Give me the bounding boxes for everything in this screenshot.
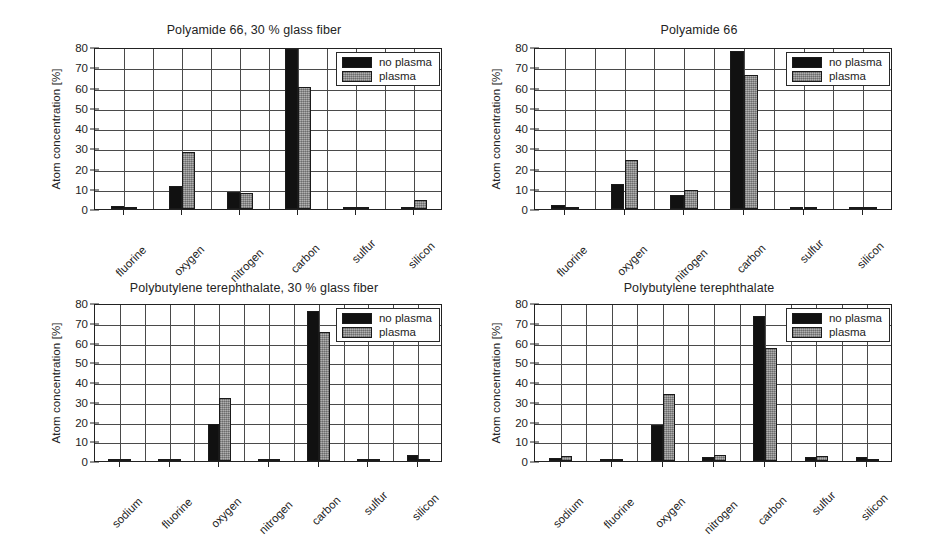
y-axis-tick bbox=[90, 442, 99, 443]
y-axis-tick-label: 0 bbox=[522, 204, 528, 216]
bar-silicon-plasma bbox=[863, 207, 877, 209]
bar-oxygen-no-plasma bbox=[208, 424, 219, 461]
x-axis-tick-label: carbon bbox=[288, 242, 321, 275]
y-axis-tick-label: 80 bbox=[75, 42, 88, 54]
y-axis-tick-label: 20 bbox=[75, 164, 88, 176]
bar-oxygen-no-plasma bbox=[169, 186, 182, 209]
bar-nitrogen-no-plasma bbox=[670, 195, 684, 209]
y-axis-tick-label: 50 bbox=[515, 103, 528, 115]
bar-carbon-no-plasma bbox=[730, 51, 744, 209]
legend-label-plasma: plasma bbox=[379, 326, 416, 338]
y-axis-tick bbox=[530, 343, 539, 344]
y-axis-tick-label: 60 bbox=[515, 338, 528, 350]
y-axis-label: Atom concentration [%] bbox=[490, 304, 502, 462]
y-axis-tick bbox=[90, 149, 99, 150]
x-axis-tick bbox=[355, 210, 356, 215]
bar-nitrogen-plasma bbox=[684, 190, 698, 209]
x-axis-tick bbox=[743, 210, 744, 215]
chart-title: Polyamide 66 bbox=[476, 23, 922, 37]
y-axis-tick-label: 10 bbox=[515, 184, 528, 196]
bar-nitrogen-plasma bbox=[269, 459, 280, 461]
legend-item-no-plasma: no plasma bbox=[342, 312, 432, 324]
gridline-vertical bbox=[740, 305, 741, 461]
y-axis-tick-label: 40 bbox=[515, 377, 528, 389]
y-axis-tick bbox=[90, 402, 99, 403]
y-axis-tick bbox=[90, 169, 99, 170]
legend-label-no-plasma: no plasma bbox=[379, 56, 432, 68]
bar-nitrogen-no-plasma bbox=[258, 459, 269, 461]
legend-label-no-plasma: no plasma bbox=[829, 56, 882, 68]
y-axis-tick bbox=[90, 129, 99, 130]
plot-wrapper: no plasma plasma 01020304050607080fluori… bbox=[94, 48, 442, 210]
y-axis-tick bbox=[90, 210, 99, 211]
legend-swatch-no-plasma bbox=[342, 57, 372, 68]
bar-sodium-plasma bbox=[120, 459, 131, 461]
y-axis-tick-label: 50 bbox=[75, 103, 88, 115]
x-axis-tick bbox=[181, 210, 182, 215]
y-axis-tick bbox=[530, 169, 539, 170]
legend-swatch-plasma bbox=[792, 71, 822, 82]
gridline-horizontal bbox=[95, 384, 441, 385]
legend-item-plasma: plasma bbox=[342, 326, 432, 338]
gridline-horizontal bbox=[95, 404, 441, 405]
bar-sulfur-no-plasma bbox=[343, 207, 356, 209]
y-axis-tick bbox=[530, 129, 539, 130]
bar-fluorine-no-plasma bbox=[111, 206, 124, 209]
gridline-horizontal bbox=[535, 150, 891, 151]
legend-item-no-plasma: no plasma bbox=[342, 56, 432, 68]
y-axis-tick bbox=[530, 383, 539, 384]
bar-fluorine-plasma bbox=[612, 459, 624, 461]
x-axis-tick-label: silicon bbox=[406, 240, 437, 271]
gridline-vertical-center bbox=[561, 305, 562, 461]
legend-item-no-plasma: no plasma bbox=[792, 56, 882, 68]
legend-swatch-no-plasma bbox=[792, 313, 822, 324]
chart-legend: no plasma plasma bbox=[786, 52, 890, 86]
gridline-horizontal bbox=[95, 130, 441, 131]
y-axis-tick-label: 0 bbox=[82, 456, 88, 468]
bar-oxygen-plasma bbox=[663, 394, 675, 461]
y-axis-tick-label: 30 bbox=[515, 397, 528, 409]
x-axis-tick-label: nitrogen bbox=[257, 498, 295, 536]
x-axis-tick bbox=[764, 462, 765, 467]
x-axis-tick-label: carbon bbox=[734, 242, 767, 275]
gridline-horizontal bbox=[535, 90, 891, 91]
x-axis-tick bbox=[119, 462, 120, 467]
x-axis-tick bbox=[683, 210, 684, 215]
x-axis-tick-label: oxygen bbox=[652, 495, 687, 530]
legend-label-plasma: plasma bbox=[829, 326, 866, 338]
x-axis-tick-label: fluorine bbox=[601, 496, 636, 531]
y-axis-tick-label: 40 bbox=[75, 377, 88, 389]
gridline-vertical bbox=[153, 49, 154, 209]
bar-sulfur-plasma bbox=[356, 207, 369, 209]
chart-legend: no plasma plasma bbox=[336, 52, 440, 86]
y-axis-tick bbox=[90, 68, 99, 69]
gridline-horizontal bbox=[535, 130, 891, 131]
bar-carbon-plasma bbox=[298, 87, 311, 209]
bar-silicon-no-plasma bbox=[849, 207, 863, 209]
x-axis-tick bbox=[611, 462, 612, 467]
bar-carbon-plasma bbox=[765, 348, 777, 461]
legend-swatch-no-plasma bbox=[342, 313, 372, 324]
gridline-vertical-center bbox=[240, 49, 241, 209]
x-axis-tick bbox=[713, 462, 714, 467]
gridline-horizontal bbox=[95, 110, 441, 111]
y-axis-tick-label: 40 bbox=[75, 123, 88, 135]
legend-item-plasma: plasma bbox=[792, 70, 882, 82]
bar-sulfur-plasma bbox=[368, 459, 379, 461]
x-axis-tick bbox=[862, 210, 863, 215]
y-axis-tick-label: 30 bbox=[75, 397, 88, 409]
bar-carbon-no-plasma bbox=[307, 311, 318, 461]
bar-fluorine-plasma bbox=[565, 207, 579, 209]
x-axis-tick-label: sodium bbox=[109, 495, 144, 530]
gridline-horizontal bbox=[95, 90, 441, 91]
gridline-horizontal bbox=[535, 364, 891, 365]
x-axis-tick bbox=[417, 462, 418, 467]
y-axis-tick-label: 70 bbox=[515, 62, 528, 74]
x-axis-tick bbox=[367, 462, 368, 467]
chart-title: Polybutylene terephthalate bbox=[476, 281, 922, 295]
legend-item-plasma: plasma bbox=[792, 326, 882, 338]
legend-item-plasma: plasma bbox=[342, 70, 432, 82]
y-axis-tick bbox=[90, 48, 99, 49]
bar-sodium-no-plasma bbox=[549, 458, 561, 461]
